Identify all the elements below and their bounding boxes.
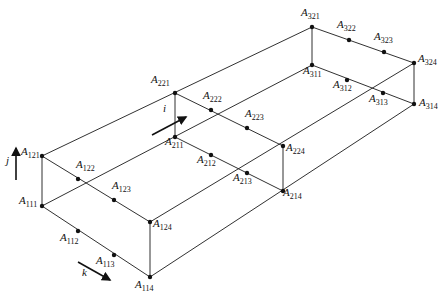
node-label-A123: A123: [111, 179, 131, 194]
edge-A211-A214: [175, 137, 283, 191]
node-A213: [245, 171, 249, 175]
node-A313: [381, 91, 385, 95]
edge-A111-A114: [42, 206, 150, 277]
node-A111: [40, 204, 44, 208]
axis-i-label: i: [163, 102, 166, 114]
node-A224: [281, 144, 285, 148]
node-label-A223: A223: [244, 107, 264, 122]
edge-A124-A324: [150, 63, 414, 222]
node-A222: [209, 108, 213, 112]
node-label-A124: A124: [152, 217, 172, 232]
node-A122: [76, 177, 80, 181]
node-label-A324: A324: [417, 52, 437, 67]
node-A113: [112, 253, 116, 257]
axis-i-arrow-icon: [152, 117, 186, 135]
node-label-A214: A214: [282, 186, 302, 201]
node-A323: [382, 50, 386, 54]
node-A211: [173, 135, 177, 139]
node-label-A314: A314: [418, 96, 438, 111]
node-A212: [209, 153, 213, 157]
nodes-group: [40, 25, 416, 279]
node-label-A222: A222: [202, 89, 222, 104]
node-label-A112: A112: [59, 231, 78, 246]
node-A123: [112, 198, 116, 202]
edges-group: [42, 27, 414, 277]
node-label-A122: A122: [75, 158, 95, 173]
node-A324: [412, 61, 416, 65]
axis-j-label: j: [4, 154, 9, 166]
node-A311: [310, 63, 314, 67]
node-label-A224: A224: [285, 141, 305, 156]
node-label-A323: A323: [373, 30, 393, 45]
node-A112: [76, 229, 80, 233]
node-A312: [345, 78, 349, 82]
edge-A121-A124: [42, 156, 150, 222]
node-label-A113: A113: [95, 254, 114, 269]
node-A314: [412, 102, 416, 106]
edge-A221-A224: [175, 93, 283, 146]
node-A121: [40, 154, 44, 158]
node-label-A321: A321: [300, 6, 320, 21]
node-label-A221: A221: [150, 73, 170, 88]
edge-A321-A324: [312, 27, 414, 63]
node-label-A111: A111: [18, 194, 37, 209]
node-label-A114: A114: [134, 278, 153, 293]
node-A114: [148, 275, 152, 279]
node-A124: [148, 220, 152, 224]
axes-group: ijk: [4, 102, 186, 280]
node-label-A121: A121: [20, 145, 40, 160]
node-label-A322: A322: [336, 18, 356, 33]
node-A221: [173, 91, 177, 95]
node-A223: [245, 126, 249, 130]
lattice-diagram: ijk A111A112A113A114A121A122A123A124A211…: [0, 0, 438, 298]
node-A321: [310, 25, 314, 29]
node-A322: [347, 38, 351, 42]
edge-A311-A314: [312, 65, 414, 104]
